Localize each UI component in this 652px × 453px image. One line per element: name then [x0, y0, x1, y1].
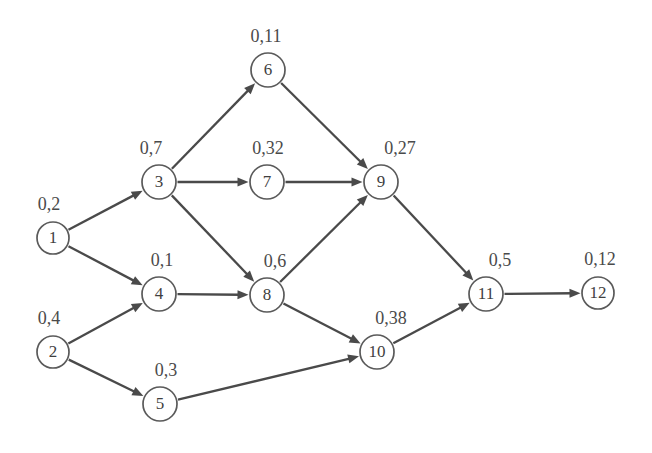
edge-line: [283, 304, 353, 340]
node-weight-label-9: 0,27: [384, 138, 416, 158]
node-weight-label-6: 0,11: [251, 26, 282, 46]
arrowhead-icon: [352, 177, 363, 186]
edge-line: [280, 201, 362, 282]
node-weight-label-4: 0,1: [151, 250, 174, 270]
node-id-label: 9: [377, 172, 386, 191]
edge-8-to-9: [280, 195, 368, 282]
edge-11-to-12: [504, 289, 580, 298]
edge-3-to-7: [178, 177, 249, 186]
graph-node-4[interactable]: 4: [142, 277, 176, 311]
edge-4-to-8: [177, 290, 248, 299]
node-weight-label-8: 0,6: [264, 251, 287, 271]
graph-node-7[interactable]: 7: [250, 165, 284, 199]
graph-node-12[interactable]: 12: [582, 277, 614, 309]
edge-line: [281, 83, 362, 163]
edge-line: [68, 246, 135, 281]
edge-line: [68, 307, 135, 344]
node-weight-label-3: 0,7: [140, 138, 163, 158]
network-graph-canvas: 123456789101112 0,20,40,70,10,30,110,320…: [0, 0, 652, 453]
node-id-label: 11: [478, 284, 494, 303]
node-weight-label-12: 0,12: [584, 249, 616, 269]
edge-1-to-3: [68, 191, 142, 230]
edge-line: [177, 294, 240, 295]
node-id-label: 4: [155, 284, 164, 303]
node-weight-label-1: 0,2: [38, 194, 61, 214]
edge-2-to-5: [69, 360, 144, 396]
arrowhead-icon: [569, 289, 580, 298]
node-id-label: 3: [155, 172, 164, 191]
graph-node-2[interactable]: 2: [37, 336, 69, 368]
edge-1-to-4: [68, 246, 142, 285]
edge-5-to-10: [178, 354, 359, 399]
node-weight-label-11: 0,5: [489, 250, 512, 270]
node-id-label: 5: [156, 394, 165, 413]
edge-7-to-9: [286, 177, 363, 186]
node-weight-label-2: 0,4: [38, 308, 61, 328]
graph-node-1[interactable]: 1: [37, 222, 69, 254]
node-id-label: 2: [49, 342, 58, 361]
graph-node-10[interactable]: 10: [360, 335, 394, 369]
node-id-label: 8: [263, 285, 272, 304]
node-weight-label-10: 0,38: [375, 308, 407, 328]
arrowhead-icon: [347, 354, 359, 363]
node-id-label: 12: [590, 283, 607, 302]
node-id-label: 10: [369, 342, 386, 361]
graph-node-9[interactable]: 9: [364, 165, 398, 199]
edge-6-to-9: [281, 83, 368, 169]
graph-node-11[interactable]: 11: [469, 277, 503, 311]
edge-line: [172, 89, 249, 168]
node-id-label: 6: [264, 60, 273, 79]
arrowhead-icon: [237, 290, 248, 299]
node-id-label: 7: [263, 172, 272, 191]
edge-line: [68, 195, 135, 230]
graph-node-8[interactable]: 8: [250, 278, 284, 312]
edge-2-to-4: [68, 303, 142, 344]
edge-9-to-11: [394, 195, 474, 280]
edge-3-to-6: [172, 83, 255, 168]
edge-8-to-10: [283, 304, 360, 344]
edge-line: [394, 195, 468, 274]
network-diagram: 123456789101112 0,20,40,70,10,30,110,320…: [0, 0, 652, 453]
graph-node-3[interactable]: 3: [142, 165, 176, 199]
edge-line: [172, 195, 249, 275]
edges-layer: [68, 83, 580, 400]
edge-line: [504, 293, 572, 294]
node-weight-label-7: 0,32: [252, 138, 284, 158]
graph-node-5[interactable]: 5: [143, 387, 177, 421]
edge-3-to-8: [172, 195, 254, 281]
graph-node-6[interactable]: 6: [251, 53, 285, 87]
edge-line: [178, 358, 351, 399]
node-id-label: 1: [49, 228, 58, 247]
arrowhead-icon: [238, 177, 249, 186]
edge-line: [69, 360, 136, 393]
node-weight-label-5: 0,3: [155, 360, 178, 380]
